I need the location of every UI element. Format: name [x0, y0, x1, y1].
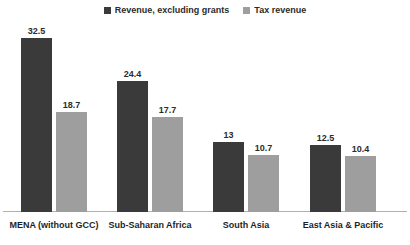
category-label-1: Sub-Saharan Africa [108, 219, 191, 231]
bar-rect [248, 155, 279, 212]
bar-revenue-0[interactable]: 32.5 [21, 38, 52, 212]
bar-tax-2[interactable]: 10.7 [248, 155, 279, 212]
bar-value-label: 17.7 [159, 105, 177, 116]
bar-revenue-3[interactable]: 12.5 [310, 145, 341, 212]
bar-value-label: 32.5 [28, 26, 46, 37]
bar-value-label: 12.5 [317, 133, 335, 144]
category-label-3: East Asia & Pacific [303, 219, 384, 231]
category-label-0: MENA (without GCC) [9, 219, 98, 231]
bar-value-label: 24.4 [124, 69, 142, 80]
bar-value-label: 10.7 [255, 143, 273, 154]
bar-tax-3[interactable]: 10.4 [345, 156, 376, 212]
bar-value-label: 18.7 [63, 100, 81, 111]
bar-rect [21, 38, 52, 212]
bar-tax-1[interactable]: 17.7 [152, 117, 183, 212]
bar-revenue-2[interactable]: 13 [213, 142, 244, 212]
bar-rect [152, 117, 183, 212]
bar-rect [213, 142, 244, 212]
bar-value-label: 10.4 [352, 144, 370, 155]
bar-value-label: 13 [223, 130, 233, 141]
category-label-2: South Asia [223, 219, 270, 231]
bar-rect [345, 156, 376, 212]
bar-tax-0[interactable]: 18.7 [56, 112, 87, 212]
bar-chart: Revenue, excluding grants Tax revenue 32… [0, 0, 410, 245]
bar-rect [310, 145, 341, 212]
bar-rect [117, 81, 148, 212]
bar-rect [56, 112, 87, 212]
bar-revenue-1[interactable]: 24.4 [117, 81, 148, 212]
